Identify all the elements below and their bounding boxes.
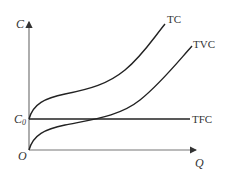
tc-curve (29, 24, 165, 119)
y-axis-label: C (16, 17, 25, 31)
x-axis-label: Q (195, 156, 204, 170)
tvc-label: TVC (193, 38, 215, 50)
c0-label: C0 (14, 112, 26, 127)
tvc-curve (29, 46, 192, 150)
tc-label: TC (167, 13, 181, 25)
cost-curves-chart: C Q O C0 TC TVC TFC (0, 0, 225, 173)
tfc-label: TFC (192, 113, 212, 125)
origin-label: O (18, 149, 27, 163)
